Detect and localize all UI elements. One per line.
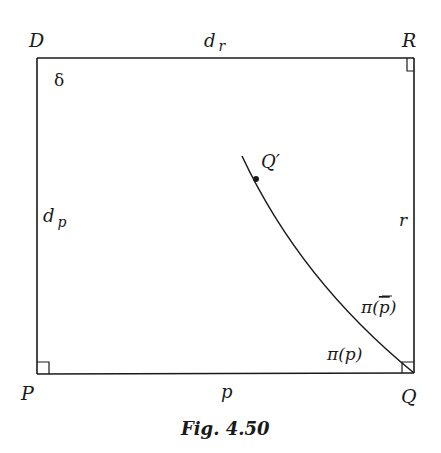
label-D: D [28,29,44,51]
label-p: p [221,381,233,402]
right-angle-mark-P [37,362,49,374]
label-pi-p: π(p) [326,344,362,364]
parallel-curve [242,156,414,373]
label-Q: Q [401,385,417,407]
label-Q-prime: Q′ [261,151,280,172]
label-d-p: dp [43,205,67,230]
side-QP [37,373,414,374]
right-angle-mark-R [407,58,414,71]
label-r: r [399,210,408,230]
figure-4-50: D R P Q Q′ dr dp r p δ π(p) π(p) Fig. 4.… [0,0,441,453]
point-Q-prime [253,176,259,182]
label-R: R [401,29,416,51]
label-delta: δ [54,70,64,90]
figure-caption: Fig. 4.50 [180,418,270,439]
label-d-r: dr [204,30,227,54]
label-P: P [20,382,35,404]
label-pi-pbar: π(p) [360,297,396,317]
